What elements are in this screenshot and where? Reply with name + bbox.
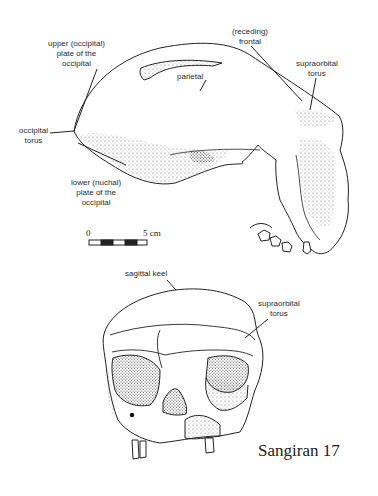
label-sagittal-keel: sagittal keel: [125, 269, 167, 279]
label-line: lower (nuchal): [71, 178, 121, 188]
label-occipital-torus: occipital torus: [19, 126, 48, 146]
label-receding-frontal: (receding) frontal: [232, 27, 268, 47]
label-line: supraorbital: [296, 59, 338, 69]
scale-bar: [89, 240, 147, 245]
label-line: plate of the: [71, 188, 121, 198]
label-line: upper (occipital): [48, 39, 105, 49]
label-lower-nuchal-plate: lower (nuchal) plate of the occipital: [71, 178, 121, 208]
label-line: parietal: [177, 72, 203, 82]
label-line: sagittal keel: [125, 269, 167, 279]
label-parietal: parietal: [177, 72, 203, 82]
figure-title: Sangiran 17: [258, 441, 340, 461]
label-line: occipital: [48, 59, 105, 69]
label-line: frontal: [232, 37, 268, 47]
label-upper-occipital-plate: upper (occipital) plate of the occipital: [48, 39, 105, 69]
frontal-skull: [103, 289, 263, 459]
label-line: torus: [296, 69, 338, 79]
label-line: occipital: [19, 126, 48, 136]
label-supraorbital-torus-lateral: supraorbital torus: [296, 59, 338, 79]
scale-end-label: 5 cm: [143, 228, 161, 238]
label-line: plate of the: [48, 49, 105, 59]
label-supraorbital-torus-frontal: supraorbital torus: [258, 299, 300, 319]
label-line: (receding): [232, 27, 268, 37]
label-line: supraorbital: [258, 299, 300, 309]
label-line: torus: [258, 309, 300, 319]
scale-start-label: 0: [86, 228, 91, 238]
label-line: torus: [19, 136, 48, 146]
label-line: occipital: [71, 198, 121, 208]
